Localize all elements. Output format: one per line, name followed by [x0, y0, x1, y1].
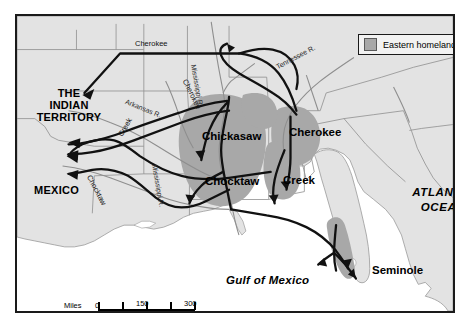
scale-tick: [122, 302, 124, 310]
scale-miles-300: 300: [184, 299, 197, 308]
label-tribe-creek: Creek: [283, 174, 315, 186]
scale-unit-miles: Miles: [64, 301, 82, 310]
map-frame: THE INDIAN TERRITORY MEXICO ATLANTIC OCE…: [15, 14, 455, 313]
territory-line-2: INDIAN: [33, 100, 105, 112]
scale-tick: [170, 302, 172, 310]
scale-bar: Miles 0 150 300 Km 0 150 300: [64, 297, 216, 313]
label-mexico: MEXICO: [34, 185, 79, 197]
scale-tick: [117, 312, 119, 313]
scale-miles-0: 0: [95, 301, 99, 310]
scale-tick: [98, 312, 100, 313]
territory-line-3: TERRITORY: [33, 112, 105, 124]
map-legend: Eastern homelands: [358, 34, 455, 55]
label-tribe-chickasaw: Chickasaw: [202, 130, 261, 142]
scale-tick: [155, 312, 157, 313]
scale-miles-150: 150: [136, 299, 149, 308]
label-indian-territory: THE INDIAN TERRITORY: [33, 88, 105, 124]
label-gulf-of-mexico: Gulf of Mexico: [226, 274, 309, 286]
scale-tick: [136, 312, 138, 313]
atlantic-line-2: OCEAN: [409, 201, 455, 213]
label-tribe-chocktaw: Chocktaw: [205, 175, 259, 187]
atlantic-line-1: ATLANTIC: [409, 186, 455, 198]
legend-label-eastern-homelands: Eastern homelands: [383, 40, 455, 50]
label-tribe-seminole: Seminole: [372, 264, 423, 276]
legend-swatch-eastern-homelands: [364, 38, 377, 51]
label-atlantic-ocean: ATLANTIC OCEAN: [409, 186, 455, 214]
label-route-cherokee-north: Cherokee: [135, 40, 168, 48]
label-tribe-cherokee: Cherokee: [289, 126, 341, 138]
